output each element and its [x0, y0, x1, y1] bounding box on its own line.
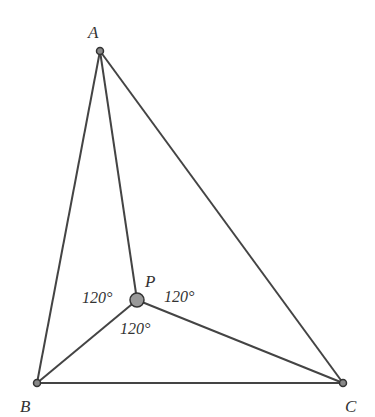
vertex-c-dot: [340, 380, 347, 387]
segment-ab: [37, 51, 100, 383]
label-b: B: [20, 397, 31, 416]
vertex-b-dot: [34, 380, 41, 387]
label-p: P: [144, 272, 155, 291]
point-p-dot: [130, 293, 144, 307]
angle-label-left: 120°: [82, 289, 113, 306]
triangle-diagram: A B C P 120° 120° 120°: [0, 0, 375, 417]
segment-pa: [100, 51, 137, 300]
segment-pb: [37, 300, 137, 383]
label-c: C: [345, 397, 357, 416]
angle-label-bottom: 120°: [120, 320, 151, 337]
label-a: A: [87, 23, 99, 42]
angle-label-right: 120°: [164, 288, 195, 305]
vertex-a-dot: [97, 48, 104, 55]
